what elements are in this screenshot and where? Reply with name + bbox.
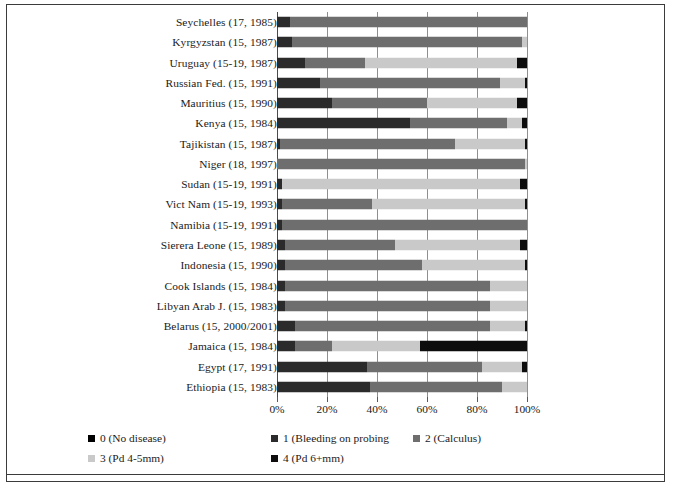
bar-segment	[482, 361, 522, 372]
legend-row: 3 (Pd 4-5mm)4 (Pd 6+mm)	[88, 452, 558, 470]
stacked-bar	[277, 280, 527, 291]
bar-segment	[525, 199, 528, 210]
legend-item[interactable]: 2 (Calculus)	[413, 432, 481, 444]
stacked-bar	[277, 138, 527, 149]
x-tick	[477, 397, 478, 402]
bar-row: Namibia (15-19, 1991)	[0, 215, 673, 235]
bar-segment	[395, 240, 520, 251]
bar-segment	[282, 199, 372, 210]
legend-item[interactable]: 4 (Pd 6+mm)	[271, 452, 344, 464]
bar-segment	[277, 260, 285, 271]
legend-item[interactable]: 1 (Bleeding on probing	[271, 432, 389, 444]
x-tick-label: 20%	[317, 403, 338, 415]
bar-row: Sudan (15-19, 1991)	[0, 174, 673, 194]
bar-segment	[422, 260, 525, 271]
bar-segment	[370, 381, 503, 392]
legend-swatch-icon	[271, 435, 278, 442]
bar-segment	[320, 77, 500, 88]
bar-segment	[525, 260, 528, 271]
legend-item[interactable]: 3 (Pd 4-5mm)	[88, 452, 164, 464]
bar-segment	[295, 321, 490, 332]
bar-segment	[285, 300, 490, 311]
bar-segment	[277, 57, 305, 68]
bar-row: Seychelles (17, 1985)	[0, 12, 673, 32]
bar-segment	[427, 98, 517, 109]
bar-row: Jamaica (15, 1984)	[0, 336, 673, 356]
legend-swatch-icon	[271, 455, 278, 462]
bar-segment	[522, 361, 527, 372]
legend-swatch-icon	[88, 435, 95, 442]
stacked-bar	[277, 199, 527, 210]
bar-row: Cook Islands (15, 1984)	[0, 275, 673, 295]
x-tick-label: 0%	[269, 403, 284, 415]
category-label: Egypt (17, 1991)	[198, 361, 277, 373]
category-label: Ethiopia (15, 1983)	[186, 381, 277, 393]
x-tick-label: 100%	[514, 403, 541, 415]
legend-swatch-icon	[88, 455, 95, 462]
category-label: Uruguay (15-19, 1987)	[170, 57, 277, 69]
bar-segment	[522, 118, 527, 129]
x-tick-label: 80%	[467, 403, 488, 415]
bar-row: Tajikistan (15, 1987)	[0, 134, 673, 154]
bar-segment	[522, 37, 527, 48]
bar-segment	[525, 321, 528, 332]
category-label: Niger (18, 1997)	[199, 158, 277, 170]
bar-segment	[277, 158, 525, 169]
stacked-bar	[277, 321, 527, 332]
bar-segment	[490, 321, 525, 332]
bar-row: Niger (18, 1997)	[0, 154, 673, 174]
bar-segment	[410, 118, 508, 129]
bar-segment	[282, 219, 527, 230]
bar-segment	[277, 98, 332, 109]
category-label: Cook Islands (15, 1984)	[165, 280, 277, 292]
bar-segment	[490, 300, 528, 311]
bar-segment	[290, 17, 528, 28]
stacked-bar	[277, 240, 527, 251]
bar-segment	[277, 240, 285, 251]
legend-label: 1 (Bleeding on probing	[283, 432, 389, 444]
bar-segment	[332, 341, 420, 352]
bar-segment	[277, 280, 285, 291]
bar-segment	[277, 17, 290, 28]
category-label: Russian Fed. (15, 1991)	[166, 77, 277, 89]
legend-label: 3 (Pd 4-5mm)	[100, 452, 164, 464]
bar-segment	[282, 179, 520, 190]
stacked-bar	[277, 77, 527, 88]
bar-segment	[367, 361, 482, 372]
category-label: Indonesia (15, 1990)	[180, 259, 277, 271]
bar-segment	[305, 57, 365, 68]
stacked-bar	[277, 118, 527, 129]
bar-segment	[277, 361, 367, 372]
legend-swatch-icon	[413, 435, 420, 442]
bar-segment	[285, 280, 490, 291]
bar-segment	[277, 321, 295, 332]
bar-row: Mauritius (15, 1990)	[0, 93, 673, 113]
bar-segment	[507, 118, 522, 129]
x-tick	[427, 397, 428, 402]
category-label: Jamaica (15, 1984)	[188, 340, 277, 352]
bar-segment	[372, 199, 525, 210]
stacked-bar	[277, 381, 527, 392]
x-tick	[527, 397, 528, 402]
category-label: Libyan Arab J. (15, 1983)	[157, 300, 277, 312]
bar-segment	[285, 260, 423, 271]
chart-legend: 0 (No disease)1 (Bleeding on probing2 (C…	[88, 432, 558, 472]
stacked-bar	[277, 260, 527, 271]
bar-row: Ethiopia (15, 1983)	[0, 377, 673, 397]
bar-segment	[420, 341, 528, 352]
bar-segment	[280, 138, 455, 149]
legend-item[interactable]: 0 (No disease)	[88, 432, 166, 444]
bar-segment	[277, 300, 285, 311]
stacked-bar	[277, 98, 527, 109]
bar-segment	[490, 280, 528, 291]
bar-segment	[292, 37, 522, 48]
category-label: Kenya (15, 1984)	[195, 117, 277, 129]
bar-segment	[502, 381, 527, 392]
bar-segment	[525, 158, 528, 169]
bar-segment	[277, 341, 295, 352]
category-label: Seychelles (17, 1985)	[176, 16, 277, 28]
bar-row: Vict Nam (15-19, 1993)	[0, 194, 673, 214]
stacked-bar	[277, 57, 527, 68]
bar-row: Russian Fed. (15, 1991)	[0, 73, 673, 93]
category-label: Sierera Leone (15, 1989)	[161, 239, 277, 251]
